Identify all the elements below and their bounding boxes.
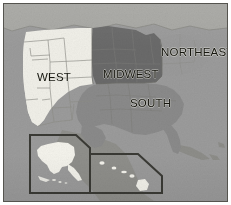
island-oahu [112, 166, 117, 169]
island-maui [129, 174, 134, 178]
map-frame: WEST MIDWEST SOUTH NORTHEAST [3, 3, 228, 202]
region-label-west: WEST [37, 72, 71, 84]
map-graphic [4, 4, 227, 201]
us-census-regions-map: WEST MIDWEST SOUTH NORTHEAST [0, 0, 231, 205]
region-label-south: SOUTH [130, 98, 171, 110]
island-molokai [121, 171, 127, 174]
island-kauai [99, 161, 104, 164]
region-label-midwest: MIDWEST [103, 69, 159, 81]
region-label-northeast: NORTHEAST [161, 47, 228, 59]
